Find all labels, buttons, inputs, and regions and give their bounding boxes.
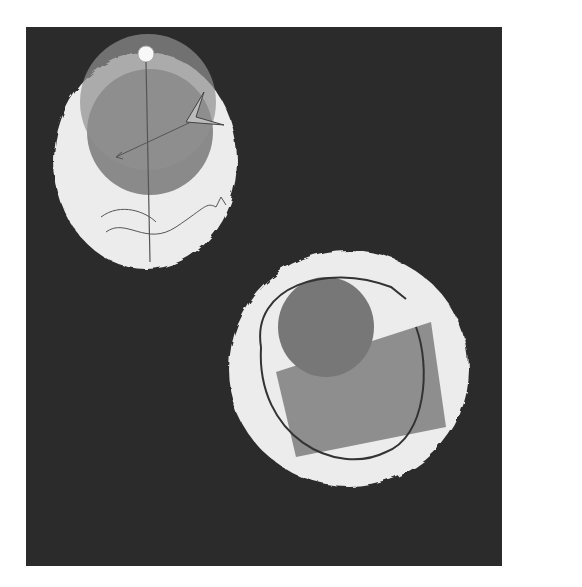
artwork-canvas: [26, 27, 502, 566]
lower-oval: [227, 249, 467, 485]
upper-oval: [52, 34, 236, 267]
artwork-svg: [26, 27, 502, 566]
